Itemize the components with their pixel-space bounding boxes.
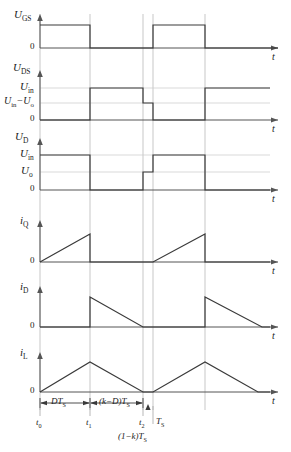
- uds-zero-label: 0: [30, 114, 35, 123]
- ugs-zero-label: 0: [30, 42, 35, 51]
- panel-il-axes: [40, 354, 278, 392]
- uds-t-arrow: [271, 118, 278, 123]
- axis-label-iq: iQ: [20, 215, 28, 229]
- id-trace: [40, 297, 270, 327]
- axis-label-id: iD: [20, 281, 28, 295]
- level-label-uin-minus-uo: Uin−Uo: [4, 96, 34, 109]
- panel-id-axes: [40, 288, 278, 327]
- time-ticks: [40, 406, 153, 424]
- iq-axis-arrow: [37, 220, 43, 227]
- ud-time-label: t: [272, 194, 275, 204]
- id-axis-arrow: [37, 286, 43, 293]
- tick-label-t0: t0: [36, 418, 42, 429]
- axis-label-ugs: UGS: [14, 9, 32, 23]
- il-trace: [40, 362, 270, 392]
- ud-zero-label: 0: [30, 184, 35, 193]
- panel-ugs-axes: [40, 16, 278, 48]
- remainder-label-1-minus-k-ts: (1−k)TS: [118, 432, 147, 443]
- ugs-axis-arrow: [37, 14, 43, 21]
- level-label-uo: Uo: [21, 165, 33, 179]
- uds-time-label: t: [272, 124, 275, 134]
- id-zero-label: 0: [30, 321, 35, 330]
- iq-t-arrow: [271, 260, 278, 265]
- iq-time-label: t: [272, 266, 275, 276]
- interval-label-k-minus-d-ts: (k−D)TS: [99, 397, 130, 408]
- uds-axis-arrow: [37, 70, 43, 77]
- ud-axis-arrow: [37, 138, 43, 145]
- panel-ud-levels: [40, 155, 270, 172]
- waveform-figure: UGS 0 t UDS Uin Uin−Uo 0 t UD Uin Uo 0 t…: [0, 0, 291, 452]
- interval-label-dts: DTS: [51, 397, 66, 408]
- tick-label-t1: t1: [86, 418, 92, 429]
- level-label-uin-ud: Uin: [20, 148, 34, 162]
- axis-label-ud: UD: [15, 131, 28, 145]
- id-time-label: t: [272, 331, 275, 341]
- iq-trace: [40, 234, 270, 262]
- ud-trace: [40, 155, 270, 190]
- panel-uds-levels: [40, 88, 270, 103]
- iq-zero-label: 0: [30, 256, 35, 265]
- il-t-arrow: [271, 390, 278, 395]
- il-axis-arrow: [37, 352, 43, 359]
- axis-label-uds: UDS: [13, 62, 31, 76]
- panel-uds-axes: [40, 72, 278, 120]
- ud-t-arrow: [271, 188, 278, 193]
- il-time-label: t: [272, 396, 275, 406]
- il-zero-label: 0: [30, 386, 35, 395]
- waveform-canvas: [0, 0, 291, 452]
- gridlines: [40, 14, 205, 410]
- period-label-ts: TS: [156, 417, 164, 428]
- axis-label-il: iL: [20, 347, 28, 361]
- uds-trace: [40, 88, 270, 120]
- ugs-time-label: t: [272, 52, 275, 62]
- ugs-trace: [40, 25, 278, 48]
- tick-label-t2: t2: [139, 418, 145, 429]
- panel-ud-axes: [40, 140, 278, 190]
- level-label-uin-uds: Uin: [20, 81, 34, 95]
- id-t-arrow: [271, 325, 278, 330]
